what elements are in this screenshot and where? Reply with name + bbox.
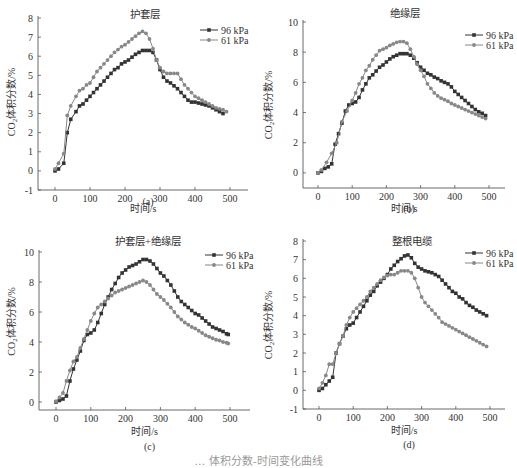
data-point	[89, 319, 93, 323]
y-tick-label: 6	[293, 77, 298, 88]
legend-entry: 61 kPa	[465, 40, 514, 51]
data-point	[345, 109, 349, 113]
data-point	[372, 290, 376, 294]
data-point	[437, 316, 441, 320]
data-point	[226, 342, 230, 346]
data-point	[141, 49, 145, 53]
x-tick-label: 0	[317, 412, 322, 423]
y-tick-label: 0	[293, 167, 298, 178]
data-point	[65, 394, 69, 398]
data-point	[113, 291, 117, 295]
y-tick-label: 1	[293, 366, 298, 377]
data-point	[460, 96, 464, 100]
data-point	[102, 62, 106, 66]
y-axis-label: CO2体积分数/%	[5, 287, 19, 356]
data-point	[190, 309, 194, 313]
y-tick-label: 8	[29, 277, 34, 288]
data-point	[364, 68, 368, 72]
data-point	[413, 276, 417, 280]
data-point	[378, 65, 382, 69]
data-point	[137, 31, 141, 35]
data-point	[137, 51, 141, 55]
data-point	[409, 53, 413, 57]
data-point	[433, 273, 437, 277]
data-point	[127, 40, 131, 44]
data-point	[106, 58, 110, 62]
data-point	[176, 295, 180, 299]
data-point	[362, 299, 366, 303]
data-point	[454, 291, 458, 295]
data-point	[471, 305, 475, 309]
data-point	[470, 105, 474, 109]
data-point	[432, 75, 436, 79]
data-point	[464, 301, 468, 305]
data-point	[95, 87, 99, 91]
data-point	[134, 262, 138, 266]
data-point	[341, 334, 345, 338]
data-point	[392, 263, 396, 267]
data-point	[72, 367, 76, 371]
data-point	[361, 76, 365, 80]
y-tick-label: 4	[28, 89, 33, 100]
data-point	[467, 102, 471, 106]
data-point	[103, 300, 107, 304]
data-point	[388, 43, 392, 47]
data-point	[326, 165, 330, 169]
data-point	[456, 93, 460, 97]
data-point	[463, 99, 467, 103]
data-point	[65, 379, 69, 383]
data-point	[321, 381, 325, 385]
data-point	[144, 31, 148, 35]
data-point	[169, 306, 173, 310]
data-point	[116, 48, 120, 52]
data-point	[123, 60, 127, 64]
data-point	[169, 283, 173, 287]
data-point	[374, 69, 378, 73]
data-point	[357, 82, 361, 86]
x-tick-label: 200	[380, 412, 395, 423]
data-point	[58, 396, 62, 400]
data-point	[81, 102, 85, 106]
x-tick-label: 400	[448, 412, 463, 423]
data-point	[92, 328, 96, 332]
data-point	[89, 331, 93, 335]
x-tick-label: 300	[414, 412, 429, 423]
y-axis-label: CO2体积分数/%	[262, 291, 276, 360]
data-point	[449, 102, 453, 106]
data-point	[324, 383, 328, 387]
data-point	[440, 320, 444, 324]
data-point	[367, 64, 371, 68]
data-point	[415, 62, 419, 66]
data-point	[443, 98, 447, 102]
data-point	[389, 273, 393, 277]
data-point	[81, 87, 85, 91]
data-point	[186, 87, 190, 91]
y-tick-label: 4	[293, 310, 298, 321]
y-tick-label: 7	[28, 32, 33, 43]
data-point	[389, 267, 393, 271]
data-point	[113, 282, 117, 286]
x-tick-label: 400	[447, 191, 462, 202]
data-point	[430, 271, 434, 275]
data-point	[355, 316, 359, 320]
data-point	[200, 102, 204, 106]
data-point	[204, 100, 208, 104]
x-tick-label: 100	[346, 412, 361, 423]
data-point	[334, 351, 338, 355]
data-point	[207, 102, 211, 106]
data-point	[325, 160, 329, 164]
chart-title: 整根电缆	[392, 235, 433, 247]
data-point	[338, 342, 342, 346]
data-point	[405, 41, 409, 45]
data-point	[444, 282, 448, 286]
data-point	[398, 40, 402, 44]
data-point	[460, 106, 464, 110]
data-point	[372, 286, 376, 290]
data-point	[451, 290, 455, 294]
x-tick-label: 500	[223, 193, 238, 204]
data-point	[162, 70, 166, 74]
data-point	[430, 308, 434, 312]
data-point	[480, 115, 484, 119]
data-point	[422, 68, 426, 72]
data-point	[61, 397, 65, 401]
